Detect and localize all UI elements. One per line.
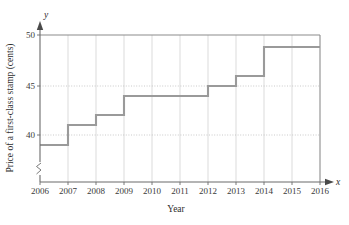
y-tick-label-40: 40	[26, 130, 36, 140]
x-tick-label-2006: 2006	[31, 186, 50, 196]
x-tick-label-2009: 2009	[115, 186, 134, 196]
x-tick-label-2007: 2007	[59, 186, 78, 196]
y-tick-label-45: 45	[26, 81, 36, 91]
x-tick-label-2013: 2013	[227, 186, 246, 196]
y-axis-break-symbol	[36, 162, 44, 175]
x-tick-label-2011: 2011	[171, 186, 189, 196]
x-axis-arrowhead	[325, 179, 334, 185]
x-tick-label-2014: 2014	[255, 186, 274, 196]
x-tick-label-2016: 2016	[311, 186, 330, 196]
y-axis-symbol-label: y	[43, 10, 49, 20]
y-tick-label-50: 50	[26, 30, 36, 40]
stamp-price-step-chart: 50 45 40 2006 2007 2008 2009 2010 2011 2…	[0, 0, 349, 225]
x-axis-symbol-label: x	[335, 177, 341, 187]
chart-canvas: 50 45 40 2006 2007 2008 2009 2010 2011 2…	[0, 0, 349, 225]
x-tick-label-2012: 2012	[199, 186, 217, 196]
y-axis-title: Price of a first-class stamp (cents)	[5, 44, 16, 173]
x-tick-label-2008: 2008	[87, 186, 106, 196]
x-tick-label-2015: 2015	[283, 186, 302, 196]
x-axis-title: Year	[167, 204, 185, 214]
y-axis-arrowhead	[37, 21, 43, 30]
x-tick-label-2010: 2010	[143, 186, 162, 196]
